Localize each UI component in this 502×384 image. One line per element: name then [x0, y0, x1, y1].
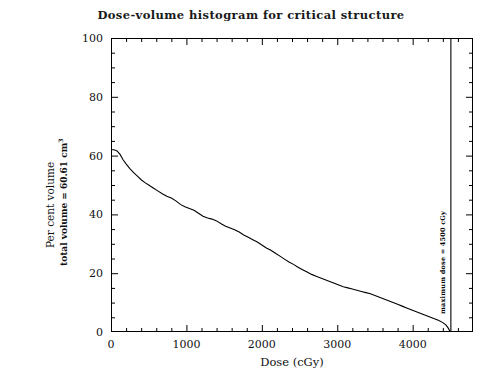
x-tick-label-0: 0	[108, 338, 115, 351]
y-axis-label: Per cent volume	[44, 162, 56, 248]
y-tick-label-80: 80	[69, 90, 103, 103]
major-tick-marks	[111, 38, 473, 332]
dvh-curve	[111, 150, 450, 332]
maximum-dose-annotation: maximum dose = 4500 cGy	[439, 211, 447, 314]
x-tick-label-1000: 1000	[172, 338, 200, 351]
x-tick-label-2000: 2000	[248, 338, 276, 351]
chart-title: Dose-volume histogram for critical struc…	[0, 8, 502, 22]
minor-tick-marks	[111, 38, 473, 332]
x-tick-label-3000: 3000	[323, 338, 351, 351]
total-volume-text: total volume = 60.61 cm	[59, 143, 69, 266]
x-axis-label: Dose (cGy)	[111, 355, 473, 369]
cubic-exponent: 3	[57, 138, 64, 142]
y-tick-label-60: 60	[69, 149, 103, 162]
dose-volume-histogram-figure: Dose-volume histogram for critical struc…	[0, 0, 502, 384]
y-axis-sublabel-total-volume: total volume = 60.61 cm3	[57, 138, 69, 266]
y-tick-label-0: 0	[69, 326, 103, 339]
y-tick-label-100: 100	[69, 32, 103, 45]
x-tick-label-4000: 4000	[399, 338, 427, 351]
plot-svg	[111, 38, 473, 332]
plot-area	[111, 38, 473, 332]
y-tick-label-20: 20	[69, 267, 103, 280]
y-tick-label-40: 40	[69, 208, 103, 221]
plot-frame	[112, 39, 473, 332]
